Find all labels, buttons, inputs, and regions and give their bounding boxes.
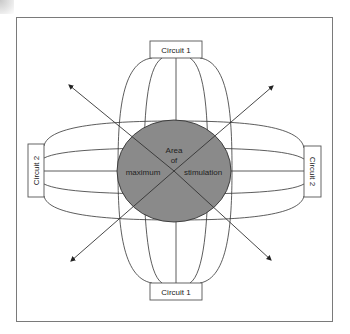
circuit1-bottom-box: Circuit 1: [150, 283, 202, 300]
interferential-current-diagram: Area of maximum stimulation Circuit 1 Ci…: [0, 0, 350, 334]
circuit2-right-box: Circuit 2: [304, 146, 321, 197]
circuit1-top-label: Circuit 1: [161, 46, 191, 55]
circuit1-bottom-label: Circuit 1: [161, 288, 191, 297]
circuit2-left-box: Circuit 2: [28, 144, 44, 197]
center-label-of: of: [171, 156, 178, 165]
circuit2-left-label: Circuit 2: [32, 155, 41, 185]
center-label-stimulation: stimulation: [184, 168, 222, 177]
circuit1-top-box: Circuit 1: [150, 41, 202, 58]
center-label-area: Area: [166, 146, 183, 155]
center-label-maximum: maximum: [126, 168, 161, 177]
circuit2-right-label: Circuit 2: [308, 157, 317, 187]
